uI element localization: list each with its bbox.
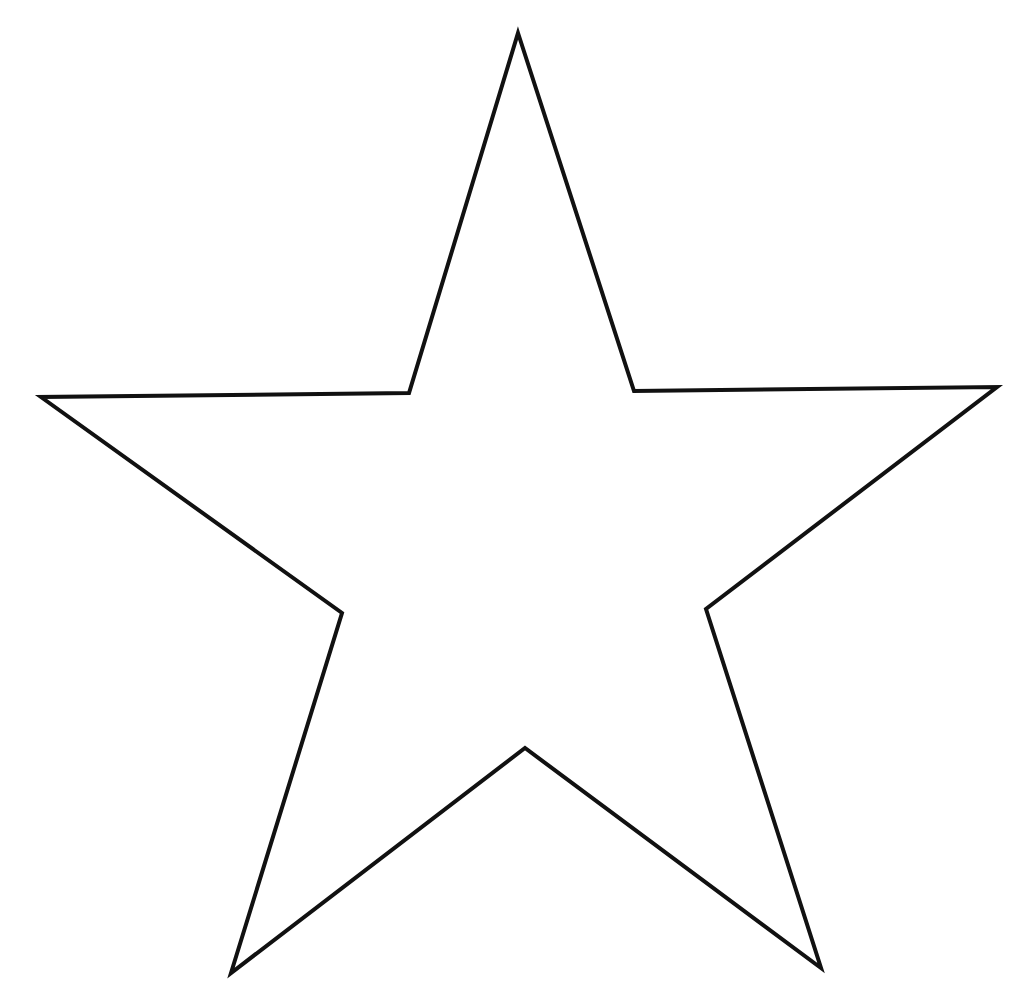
- star-icon: [41, 33, 997, 973]
- star-outline-canvas: [0, 0, 1036, 995]
